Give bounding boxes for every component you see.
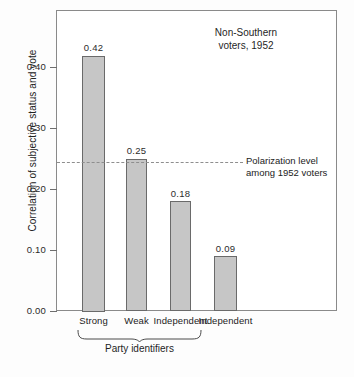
bar-value-weak: 0.25 bbox=[115, 145, 158, 156]
bar-weak[interactable] bbox=[126, 159, 147, 312]
y-tick-label-0.20: 0.20 bbox=[27, 183, 46, 194]
y-axis-title: Correlation of subjective status and vot… bbox=[27, 26, 38, 256]
bar-value-independent: 0.09 bbox=[204, 243, 247, 254]
figure-container: Non-Southern voters, 1952 Correlation of… bbox=[0, 0, 354, 377]
bar-value-strong: 0.42 bbox=[72, 42, 115, 53]
y-tick-label-0.00: 0.00 bbox=[27, 305, 46, 316]
bar-independent[interactable] bbox=[214, 256, 237, 311]
polarization-reference-line bbox=[57, 162, 243, 163]
y-tick-label-0.30: 0.30 bbox=[27, 122, 46, 133]
bar-value-independent-leaning: 0.18 bbox=[159, 188, 202, 199]
y-tick-mark-0.20 bbox=[50, 189, 57, 190]
chart-title-line-1: Non-Southern bbox=[186, 26, 306, 39]
polarization-annotation-line-2: among 1952 voters bbox=[246, 167, 327, 179]
y-tick-mark-0.30 bbox=[50, 128, 57, 129]
y-tick-mark-0.00 bbox=[50, 311, 57, 312]
party-identifiers-label: Party identifiers bbox=[77, 343, 202, 354]
party-identifiers-brace bbox=[77, 330, 202, 342]
y-tick-label-0.10: 0.10 bbox=[27, 244, 46, 255]
polarization-annotation-line-1: Polarization level bbox=[246, 155, 327, 167]
chart-title-line-2: voters, 1952 bbox=[186, 39, 306, 52]
y-tick-label-0.40: 0.40 bbox=[27, 61, 46, 72]
bar-strong[interactable] bbox=[82, 56, 105, 312]
chart-title: Non-Southern voters, 1952 bbox=[186, 26, 306, 52]
polarization-annotation: Polarization level among 1952 voters bbox=[246, 155, 327, 179]
x-tick-label-strong: Strong bbox=[69, 315, 118, 326]
y-tick-mark-0.10 bbox=[50, 250, 57, 251]
x-tick-label-independent: Independent bbox=[194, 315, 257, 326]
bar-independent-leaning[interactable] bbox=[170, 201, 191, 311]
y-tick-mark-0.40 bbox=[50, 67, 57, 68]
